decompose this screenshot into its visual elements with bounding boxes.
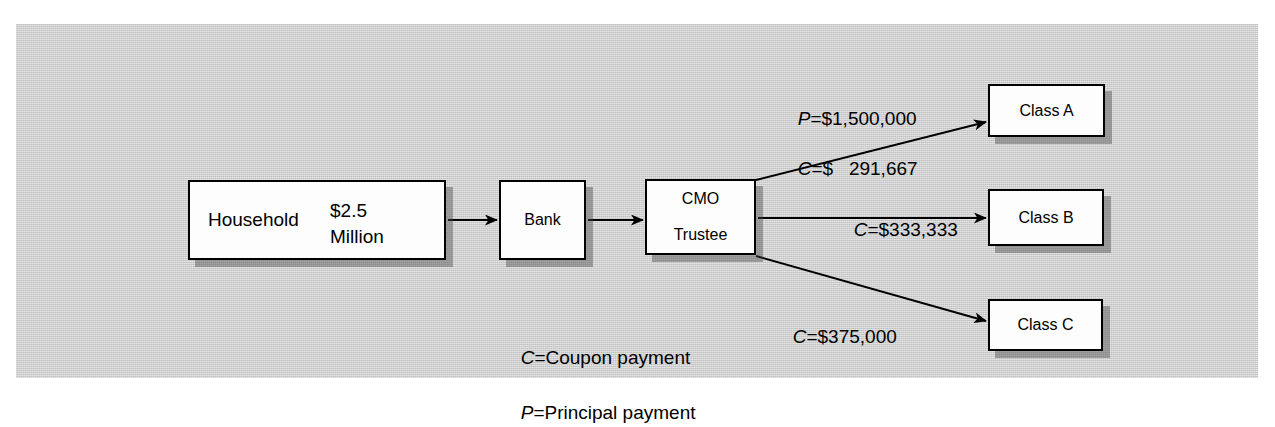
node-class-b: Class B [988, 189, 1104, 246]
legend-principal-text: =Principal payment [533, 402, 695, 423]
household-amount-line2: Million [330, 226, 384, 247]
node-bank: Bank [499, 180, 586, 260]
class-a-label-wrap: Class A [990, 86, 1103, 135]
bank-label: Bank [524, 211, 560, 229]
class-b-label-wrap: Class B [990, 191, 1102, 244]
edge-label-class-c: C=$375,000 [761, 299, 897, 374]
class-c-coupon-symbol: C [793, 326, 807, 347]
cmo-label-wrap: CMO Trustee [647, 181, 754, 253]
edge-label-class-b: C=$333,333 [822, 192, 958, 267]
class-c-label-wrap: Class C [990, 301, 1101, 349]
legend-principal-symbol: P [521, 402, 534, 423]
node-household: Household $2.5 Million [188, 180, 446, 260]
class-a-coupon-symbol: C [798, 158, 812, 179]
cmo-label-line1: CMO [674, 190, 728, 208]
class-b-coupon-symbol: C [854, 219, 868, 240]
class-a-label: Class A [1019, 102, 1073, 120]
class-b-label: Class B [1018, 209, 1073, 227]
node-cmo-trustee: CMO Trustee [645, 179, 756, 255]
household-label: Household [208, 209, 299, 231]
legend-coupon-text: =Coupon payment [534, 347, 690, 368]
node-class-a: Class A [988, 84, 1105, 137]
class-c-coupon-value: =$375,000 [806, 326, 896, 347]
cmo-label: CMO Trustee [674, 190, 728, 244]
household-amount: $2.5 Million [330, 198, 384, 249]
class-c-label: Class C [1017, 316, 1073, 334]
bank-label-wrap: Bank [501, 182, 584, 258]
class-a-coupon-value: =$ 291,667 [811, 158, 917, 179]
cmo-label-line2: Trustee [674, 226, 728, 244]
legend: C=Coupon payment P=Principal payment [489, 316, 696, 427]
household-amount-line1: $2.5 [330, 200, 367, 221]
class-b-coupon-value: =$333,333 [867, 219, 957, 240]
legend-coupon-symbol: C [521, 347, 535, 368]
edge-label-class-a: P=$1,500,000 C=$ 291,667 [766, 81, 918, 206]
class-a-principal-value: =$1,500,000 [810, 108, 916, 129]
diagram-panel: Household $2.5 Million Bank CMO Trustee … [16, 24, 1258, 378]
node-class-c: Class C [988, 299, 1103, 351]
class-a-principal-symbol: P [798, 108, 811, 129]
